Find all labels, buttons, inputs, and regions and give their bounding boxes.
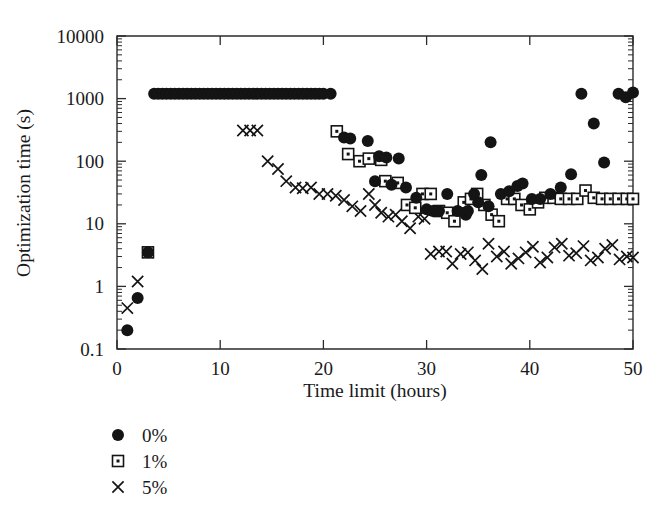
marker-square-center-dot [497,220,500,223]
legend-item: 1% [113,451,168,472]
marker-cross [506,258,517,269]
legend-label: 1% [142,451,168,472]
marker-cross [535,257,546,268]
marker-filled-circle [472,196,484,208]
marker-cross [447,258,458,269]
y-tick-label: 1000 [66,88,104,109]
marker-filled-circle [433,205,445,217]
marker-filled-circle [344,133,356,145]
marker-cross [305,182,316,193]
marker-square-center-dot [335,130,338,133]
marker-cross [491,251,502,262]
marker-filled-circle [517,178,529,190]
x-tick-label: 20 [314,358,333,379]
marker-filled-circle [588,118,600,130]
marker-square-center-dot [592,196,595,199]
marker-cross [470,255,481,266]
marker-filled-circle [386,179,398,191]
marker-filled-circle [362,135,374,147]
x-axis-tick-labels: 01020304050 [112,358,642,379]
marker-square-center-dot [414,206,417,209]
marker-cross [363,188,374,199]
marker-filled-circle [462,205,474,217]
marker-filled-circle [475,169,487,181]
marker-square-center-dot [559,197,562,200]
marker-cross [527,241,538,252]
marker-cross [396,216,407,227]
marker-cross [483,238,494,249]
marker-filled-circle [483,200,495,212]
marker-square-center-dot [429,192,432,195]
marker-square-center-dot [405,203,408,206]
marker-filled-circle [410,192,422,204]
marker-filled-circle [565,168,577,180]
x-tick-label: 50 [624,358,643,379]
legend-label: 5% [142,477,168,498]
marker-square-center-dot [609,197,612,200]
marker-square-center-dot [584,189,587,192]
x-tick-label: 10 [211,358,230,379]
marker-square-center-dot [117,460,120,463]
marker-cross [520,247,531,258]
marker-square-center-dot [520,203,523,206]
marker-filled-circle [575,88,587,100]
y-tick-label: 10 [85,213,104,234]
marker-filled-circle [627,87,639,99]
marker-square-center-dot [601,197,604,200]
marker-filled-circle [121,324,133,336]
marker-square-center-dot [617,197,620,200]
marker-filled-circle [598,157,610,169]
marker-square-center-dot [347,153,350,156]
marker-filled-circle [485,136,497,148]
marker-cross [262,156,273,167]
marker-filled-circle [112,429,124,441]
marker-cross [498,246,509,257]
marker-filled-circle [325,88,337,100]
scatter-plot: 0.1110100100010000 01020304050 Time limi… [0,0,666,528]
y-tick-label: 100 [76,151,105,172]
marker-filled-circle [534,193,546,205]
marker-square-center-dot [358,160,361,163]
marker-cross [281,176,292,187]
marker-square-center-dot [446,211,449,214]
marker-square-center-dot [453,220,456,223]
marker-cross [252,125,263,136]
marker-cross [112,481,123,492]
marker-filled-circle [555,182,567,194]
marker-filled-circle [393,153,405,165]
data-markers [121,87,639,337]
marker-square-center-dot [576,197,579,200]
y-tick-label: 1 [95,276,105,297]
marker-filled-circle [132,292,144,304]
marker-cross [578,241,589,252]
marker-cross [542,252,553,263]
chart-legend: 0%1%5% [112,425,168,498]
y-axis-tick-labels: 0.1110100100010000 [57,26,105,360]
marker-cross [477,263,488,274]
legend-label: 0% [142,425,168,446]
marker-filled-circle [380,151,392,163]
marker-square-center-dot [367,157,370,160]
legend-item: 0% [112,425,168,446]
marker-cross [441,246,452,257]
legend-item: 5% [112,477,167,498]
x-tick-label: 30 [417,358,436,379]
marker-cross [272,163,283,174]
x-tick-label: 40 [520,358,539,379]
marker-filled-circle [544,188,556,200]
marker-cross [322,188,333,199]
marker-filled-circle [142,246,154,258]
marker-square-center-dot [528,208,531,211]
marker-cross [369,199,380,210]
marker-filled-circle [369,175,381,187]
chart-figure: 0.1110100100010000 01020304050 Time limi… [0,0,666,528]
marker-square-center-dot [632,197,635,200]
marker-cross [122,303,133,314]
y-axis-title: Optimization time (s) [13,109,35,277]
y-tick-label: 10000 [57,26,105,47]
marker-cross [132,276,143,287]
x-axis-title: Time limit (hours) [303,380,446,402]
x-tick-label: 0 [112,358,122,379]
marker-filled-circle [400,182,412,194]
marker-cross [425,248,436,259]
